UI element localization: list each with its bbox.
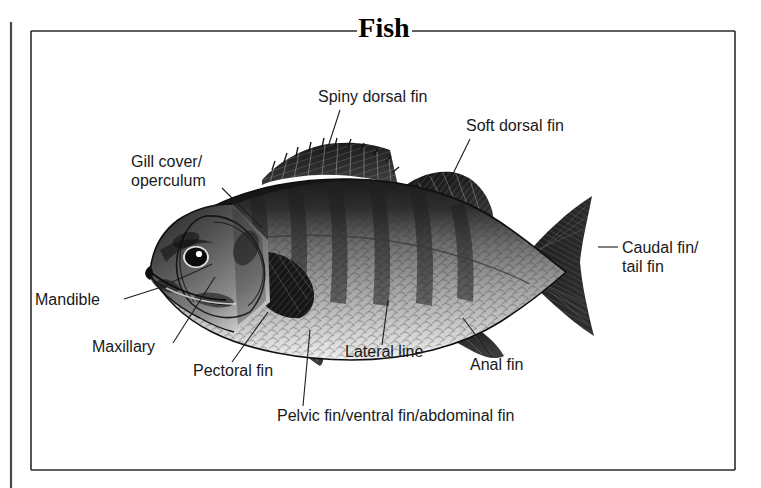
label-gill-cover-operculum: Gill cover/operculum [131, 153, 206, 189]
label-line: Lateral line [345, 343, 423, 360]
page-title: Fish [358, 12, 410, 43]
label-pectoral-fin: Pectoral fin [193, 362, 273, 379]
fish-diagram-page: Fish [0, 0, 761, 488]
fish-eye [183, 246, 209, 268]
label-anal-fin: Anal fin [470, 356, 523, 373]
label-line: Anal fin [470, 356, 523, 373]
label-line: Pectoral fin [193, 362, 273, 379]
label-line: Mandible [35, 291, 100, 308]
label-spiny-dorsal-fin: Spiny dorsal fin [318, 88, 427, 105]
fish-illustration [140, 138, 594, 370]
label-line: Soft dorsal fin [466, 117, 564, 134]
label-caudal-fin-tail-fin: Caudal fin/tail fin [622, 239, 699, 275]
label-line: tail fin [622, 258, 664, 275]
label-line: Pelvic fin/ventral fin/abdominal fin [277, 407, 514, 424]
label-line: Caudal fin/ [622, 239, 699, 256]
label-line: Spiny dorsal fin [318, 88, 427, 105]
label-mandible: Mandible [35, 291, 100, 308]
diagram-canvas: Fish [0, 0, 761, 488]
label-pelvic-ventral-abdominal-fin: Pelvic fin/ventral fin/abdominal fin [277, 407, 514, 424]
leader-line-mandible [124, 285, 168, 299]
label-maxillary: Maxillary [92, 338, 155, 355]
label-line: Maxillary [92, 338, 155, 355]
label-line: Gill cover/ [131, 153, 203, 170]
label-line: operculum [131, 172, 206, 189]
label-lateral-line: Lateral line [345, 343, 423, 360]
label-soft-dorsal-fin: Soft dorsal fin [466, 117, 564, 134]
